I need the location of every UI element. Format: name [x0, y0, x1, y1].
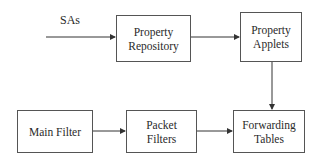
- node-line: Packet: [146, 118, 177, 132]
- node-property-applets: PropertyApplets: [240, 12, 302, 62]
- node-forwarding-tables: ForwardingTables: [233, 110, 305, 153]
- node-property-repository: PropertyRepository: [116, 15, 191, 62]
- node-line: Applets: [251, 37, 291, 51]
- node-line: Filters: [146, 132, 177, 146]
- node-line: Repository: [128, 39, 178, 53]
- node-line: Forwarding: [242, 118, 296, 132]
- node-main-filter: Main Filter: [17, 110, 93, 153]
- node-line: Property: [128, 25, 178, 39]
- sas-label: SAs: [60, 13, 80, 28]
- node-packet-filters: PacketFilters: [126, 110, 197, 153]
- node-line: Tables: [242, 132, 296, 146]
- node-line: Property: [251, 23, 291, 37]
- node-line: Main Filter: [29, 125, 81, 139]
